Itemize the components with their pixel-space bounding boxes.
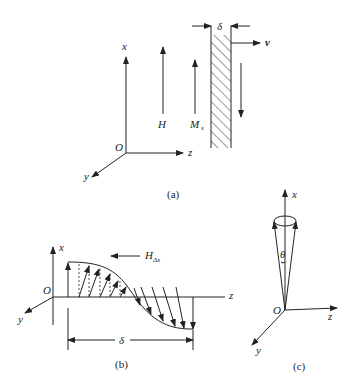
x-label-c: x — [291, 188, 297, 200]
figure-c: x z y O θ (c) — [252, 188, 337, 373]
y-label-c: y — [255, 344, 261, 356]
dashed-guides — [79, 264, 120, 297]
field-label-a: H — [157, 118, 167, 130]
cone-right-vector — [285, 222, 296, 310]
origin-label-b: O — [43, 284, 51, 296]
caption-c: (c) — [293, 360, 306, 373]
origin-label-a: O — [115, 141, 123, 153]
delta-label-a: δ — [217, 20, 223, 32]
angle-arc — [281, 262, 285, 263]
figure-a: x z y O H M s δ v (a) — [83, 20, 270, 201]
y-label-b: y — [17, 313, 23, 325]
z-label-a: z — [187, 146, 193, 158]
x-label-b: x — [58, 241, 64, 253]
caption-b: (b) — [115, 358, 128, 371]
y-axis-a — [92, 153, 126, 177]
diagram-canvas: x z y O H M s δ v (a) x z y O — [0, 0, 354, 389]
origin-label-c: O — [273, 304, 281, 316]
y-axis-b — [25, 297, 53, 313]
angle-label: θ — [280, 248, 286, 260]
magnetization-subscript: s — [201, 124, 204, 132]
z-label-c: z — [327, 310, 333, 322]
domain-wall-slab — [211, 35, 231, 148]
caption-a: (a) — [167, 188, 180, 201]
z-label-b: z — [228, 289, 234, 301]
y-label-a: y — [83, 170, 89, 182]
magnetization-label: M — [189, 118, 200, 130]
spin-arrows — [68, 263, 193, 329]
x-label-a: x — [121, 40, 127, 52]
delta-label-b: δ — [119, 334, 125, 346]
cone-left-vector — [274, 222, 285, 310]
velocity-label: v — [265, 36, 270, 48]
figure-b: x z y O H Δx — [17, 241, 234, 371]
field-subscript-b: Δx — [152, 256, 161, 264]
